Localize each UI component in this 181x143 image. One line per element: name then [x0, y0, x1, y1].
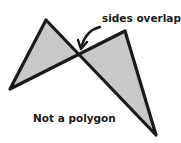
annotation-label: sides overlap [102, 12, 181, 24]
left-triangle [10, 20, 79, 89]
caption: Not a polygon [33, 112, 116, 124]
diagram-canvas: sides overlap Not a polygon [0, 0, 181, 143]
